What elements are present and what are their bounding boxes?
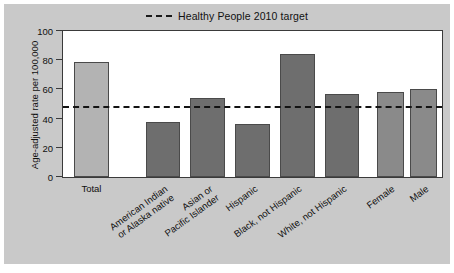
chart-figure: Healthy People 2010 target 020406080100 … (0, 0, 454, 273)
chart-legend: Healthy People 2010 target (0, 10, 454, 22)
bar (377, 92, 404, 177)
x-axis-label: Male (407, 183, 430, 204)
bar (235, 124, 270, 177)
bar (410, 89, 437, 177)
bar (146, 122, 181, 177)
y-axis-tick: 40 (56, 118, 63, 119)
y-axis-tick-label: 20 (42, 142, 53, 153)
bar (190, 98, 225, 177)
figure-margin-right (450, 0, 454, 273)
figure-margin-left (0, 0, 4, 273)
x-axis-label: Hispanic (223, 183, 259, 213)
figure-margin-top (0, 0, 454, 4)
y-axis-tick-label: 60 (42, 84, 53, 95)
y-axis-tick-label: 80 (42, 55, 53, 66)
bar (74, 62, 109, 177)
y-axis-title: Age-adjusted rate per 100,000 (29, 25, 40, 185)
y-axis-tick-label: 100 (37, 26, 53, 37)
x-axis-label: Total (81, 183, 101, 194)
y-axis-tick: 60 (56, 88, 63, 89)
reference-line-healthy-people-2010 (63, 106, 442, 108)
bar (280, 54, 315, 177)
plot-area: 020406080100 Age-adjusted rate per 100,0… (62, 30, 443, 178)
y-axis-tick: 80 (56, 59, 63, 60)
y-axis-tick-label: 0 (48, 172, 53, 183)
figure-margin-bottom (0, 264, 454, 273)
plot-inner: 020406080100 (63, 31, 442, 177)
x-axis-label: Female (365, 183, 397, 211)
legend-label-healthy-people-target: Healthy People 2010 target (178, 10, 308, 22)
y-axis-tick: 100 (56, 30, 63, 31)
y-axis-tick-label: 40 (42, 113, 53, 124)
y-axis-tick: 0 (56, 176, 63, 177)
legend-dashed-line-icon (146, 15, 172, 17)
y-axis-tick: 20 (56, 147, 63, 148)
